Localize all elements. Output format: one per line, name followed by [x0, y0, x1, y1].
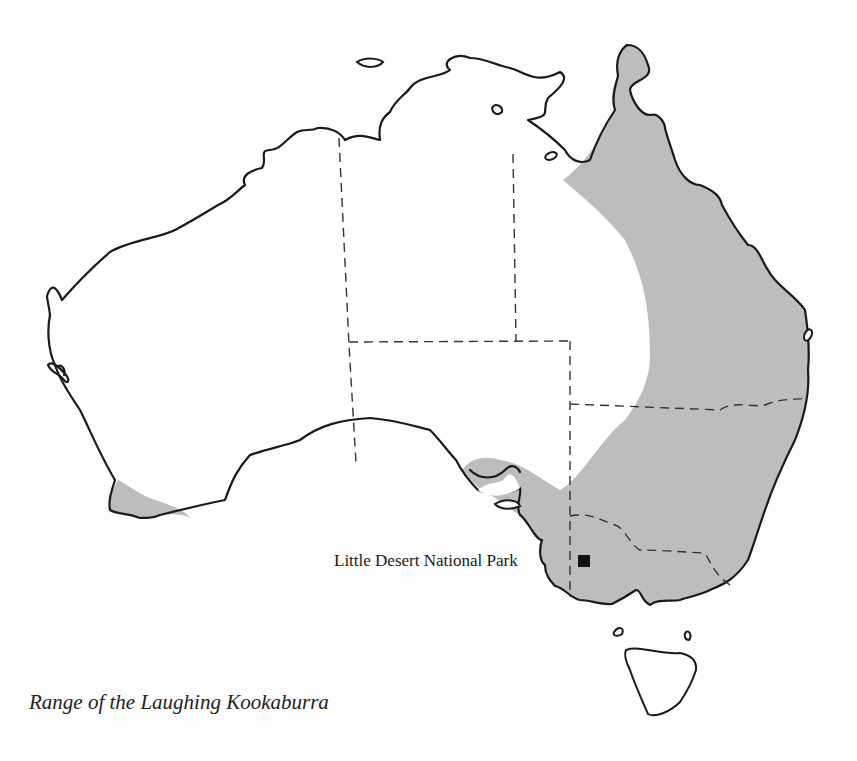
island-groote: [492, 105, 502, 114]
island-bass-strait-west: [614, 628, 623, 636]
map-figure: Little Desert National Park Range of the…: [0, 0, 857, 761]
island-flinders: [685, 632, 691, 640]
map-caption: Range of the Laughing Kookaburra: [29, 690, 329, 715]
marker-label-little-desert: Little Desert National Park: [334, 551, 518, 571]
kangaroo-island: [495, 500, 520, 508]
australia-map: [0, 0, 857, 761]
park-marker-icon: [578, 555, 590, 567]
island-melville: [357, 59, 383, 67]
tasmania: [625, 649, 696, 716]
